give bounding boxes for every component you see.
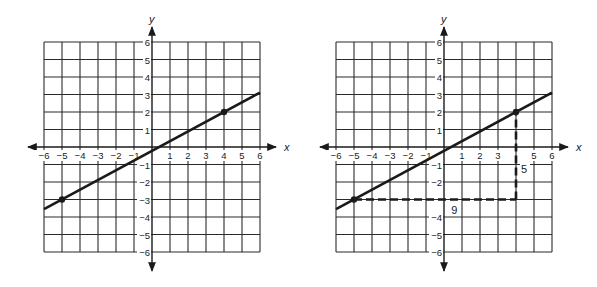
y-tick-label: −5 <box>431 230 442 241</box>
run-label: 9 <box>451 204 457 216</box>
y-tick-label: 1 <box>145 125 150 136</box>
x-tick-label: −5 <box>349 150 360 161</box>
y-tick-label: 6 <box>145 37 150 48</box>
y-tick-label: 1 <box>437 125 442 136</box>
x-tick-label: −2 <box>111 150 122 161</box>
x-tick-label: 2 <box>477 150 482 161</box>
y-tick-label: −1 <box>139 160 150 171</box>
x-axis-label: x <box>283 141 290 153</box>
x-tick-label: 2 <box>185 150 190 161</box>
x-tick-label: −4 <box>75 150 86 161</box>
x-tick-label: 3 <box>203 150 208 161</box>
x-tick-label: 3 <box>495 150 500 161</box>
y-tick-label: 3 <box>437 90 442 101</box>
y-tick-label: 2 <box>145 107 150 118</box>
y-tick-label: −6 <box>139 247 150 258</box>
y-tick-label: −4 <box>139 212 150 223</box>
right-graph: xy−6−5−4−3−2−112356654321−1−2−4−5−695 <box>320 13 582 271</box>
y-tick-label: 6 <box>437 37 442 48</box>
y-tick-label: −3 <box>139 195 150 206</box>
x-axis-label: x <box>575 141 582 153</box>
y-axis-label: y <box>440 13 448 25</box>
y-tick-label: 2 <box>437 107 442 118</box>
y-tick-label: −2 <box>431 177 442 188</box>
x-tick-label: 6 <box>549 150 554 161</box>
x-tick-label: 5 <box>239 150 244 161</box>
y-tick-label: 4 <box>437 72 442 83</box>
y-tick-label: −1 <box>431 160 442 171</box>
x-tick-label: −3 <box>385 150 396 161</box>
coordinate-graphs: xy−6−5−4−3−2−1123456654321−1−2−3−4−5−6 x… <box>0 0 597 287</box>
data-point <box>59 196 65 202</box>
x-tick-label: −2 <box>403 150 414 161</box>
x-tick-label: 4 <box>221 150 226 161</box>
data-point <box>513 109 519 115</box>
data-point <box>221 109 227 115</box>
data-point <box>351 196 357 202</box>
x-tick-label: −6 <box>331 150 342 161</box>
y-tick-label: 3 <box>145 90 150 101</box>
rise-label: 5 <box>521 163 527 175</box>
left-graph: xy−6−5−4−3−2−1123456654321−1−2−3−4−5−6 <box>28 13 290 271</box>
x-tick-label: −4 <box>367 150 378 161</box>
y-axis-label: y <box>148 13 156 25</box>
y-tick-label: 5 <box>145 55 150 66</box>
y-tick-label: −5 <box>139 230 150 241</box>
y-tick-label: 4 <box>145 72 150 83</box>
y-tick-label: −4 <box>431 212 442 223</box>
x-tick-label: 5 <box>531 150 536 161</box>
x-tick-label: −3 <box>93 150 104 161</box>
x-tick-label: 6 <box>257 150 262 161</box>
x-tick-label: −5 <box>57 150 68 161</box>
y-tick-label: 5 <box>437 55 442 66</box>
y-tick-label: −6 <box>431 247 442 258</box>
y-tick-label: −2 <box>139 177 150 188</box>
x-tick-label: 1 <box>167 150 172 161</box>
x-tick-label: −6 <box>39 150 50 161</box>
x-tick-label: 1 <box>459 150 464 161</box>
